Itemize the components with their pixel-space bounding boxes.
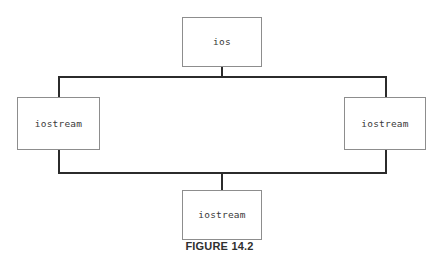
node-ios-label: ios xyxy=(213,37,231,47)
node-ios: ios xyxy=(182,17,262,67)
node-iostream-right-label: iostream xyxy=(361,119,408,129)
node-iostream-bottom: iostream xyxy=(182,190,262,240)
node-iostream-left-label: iostream xyxy=(35,119,82,129)
connector-bus-to-iostream-right xyxy=(385,76,387,99)
node-iostream-left: iostream xyxy=(17,97,100,150)
node-iostream-right: iostream xyxy=(344,97,426,150)
figure-page: ios iostream iostream iostream FIGURE 14… xyxy=(0,0,439,260)
class-hierarchy-diagram: ios iostream iostream iostream xyxy=(0,0,439,260)
connector-bus-to-iostream-left xyxy=(58,76,60,99)
connector-iostream-left-to-lower-bus xyxy=(58,149,60,174)
connector-upper-bus xyxy=(58,76,387,78)
figure-caption: FIGURE 14.2 xyxy=(0,240,439,252)
connector-lower-bus-to-iostream-bottom xyxy=(221,172,223,191)
connector-iostream-right-to-lower-bus xyxy=(385,149,387,174)
node-iostream-bottom-label: iostream xyxy=(198,210,245,220)
